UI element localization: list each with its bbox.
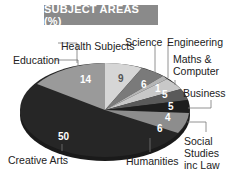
label-science: Science bbox=[125, 36, 163, 48]
label-social-2: Studies bbox=[184, 147, 219, 159]
label-maths-1: Maths & bbox=[173, 53, 212, 65]
label-business: Business bbox=[183, 87, 226, 99]
label-humanities: Humanities bbox=[126, 155, 179, 167]
value-education: 14 bbox=[80, 74, 92, 85]
value-engineering: 1 bbox=[155, 83, 161, 94]
value-science: 6 bbox=[141, 79, 147, 90]
label-education: Education bbox=[13, 54, 60, 66]
value-maths: 5 bbox=[162, 89, 168, 100]
label-engineering: Engineering bbox=[167, 36, 223, 48]
value-creative: 50 bbox=[58, 131, 70, 142]
value-humanities: 6 bbox=[157, 123, 163, 134]
value-health: 9 bbox=[118, 73, 124, 84]
label-maths-2: Computer bbox=[173, 65, 220, 77]
label-health-subjects: Health Subjects bbox=[61, 40, 135, 52]
value-business: 5 bbox=[168, 101, 174, 112]
label-social-1: Social bbox=[184, 135, 213, 147]
label-social-3: inc Law bbox=[184, 159, 220, 171]
value-social: 4 bbox=[165, 112, 171, 123]
pie-chart: 14 9 6 1 5 5 4 6 50 Education Health Sub… bbox=[0, 0, 235, 188]
label-creative-arts: Creative Arts bbox=[8, 154, 68, 166]
